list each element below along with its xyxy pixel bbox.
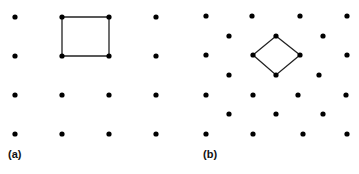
lattice-point bbox=[106, 14, 111, 19]
lattice-point bbox=[344, 13, 349, 18]
lattice-point bbox=[344, 52, 349, 57]
panel-a bbox=[12, 14, 158, 136]
lattice-point bbox=[343, 92, 348, 97]
lattice-point bbox=[106, 131, 111, 136]
lattice-point bbox=[12, 92, 17, 97]
lattice-point bbox=[226, 111, 231, 116]
lattice-point bbox=[226, 33, 231, 38]
lattice-point bbox=[250, 92, 255, 97]
lattice-point bbox=[153, 53, 158, 58]
lattice-diagram bbox=[0, 0, 359, 174]
lattice-point bbox=[250, 52, 255, 57]
lattice-point bbox=[297, 52, 302, 57]
lattice-point bbox=[226, 72, 231, 77]
lattice-point bbox=[153, 14, 158, 19]
unit-cell-outline bbox=[62, 17, 109, 56]
lattice-point bbox=[12, 53, 17, 58]
lattice-point bbox=[273, 33, 278, 38]
lattice-point bbox=[59, 131, 64, 136]
lattice-point bbox=[203, 92, 208, 97]
lattice-point bbox=[295, 92, 300, 97]
lattice-point bbox=[320, 33, 325, 38]
lattice-point bbox=[153, 131, 158, 136]
lattice-point bbox=[250, 131, 255, 136]
unit-cell-outline bbox=[253, 36, 300, 75]
lattice-point bbox=[273, 72, 278, 77]
lattice-point bbox=[320, 111, 325, 116]
lattice-point bbox=[106, 53, 111, 58]
lattice-point bbox=[203, 131, 208, 136]
lattice-point bbox=[59, 92, 64, 97]
lattice-point bbox=[344, 131, 349, 136]
lattice-point bbox=[106, 92, 111, 97]
lattice-point bbox=[316, 72, 321, 77]
lattice-point bbox=[12, 14, 17, 19]
lattice-point bbox=[273, 111, 278, 116]
panel-a-label: (a) bbox=[8, 148, 21, 160]
lattice-point bbox=[249, 13, 254, 18]
lattice-point bbox=[297, 13, 302, 18]
lattice-point bbox=[59, 14, 64, 19]
lattice-point bbox=[153, 92, 158, 97]
lattice-point bbox=[59, 53, 64, 58]
lattice-point bbox=[12, 131, 17, 136]
lattice-point bbox=[203, 13, 208, 18]
panel-b bbox=[203, 13, 349, 136]
panel-b-label: (b) bbox=[203, 148, 217, 160]
lattice-point bbox=[300, 131, 305, 136]
lattice-point bbox=[203, 52, 208, 57]
